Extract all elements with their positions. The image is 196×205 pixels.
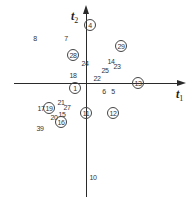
t1-axis-arrow-icon <box>177 80 186 86</box>
data-point: 24 <box>81 60 88 67</box>
data-point: 10 <box>89 174 96 181</box>
t2-axis-arrow-icon <box>83 5 89 14</box>
t1-axis-line <box>14 83 178 84</box>
data-point: 22 <box>93 75 100 82</box>
circled-data-point: 13 <box>132 77 144 89</box>
t1-axis-label: t1 <box>176 88 183 103</box>
circled-data-point: 1 <box>69 82 81 94</box>
t2-axis-label: t2 <box>71 10 78 25</box>
data-point: 5 <box>111 88 115 95</box>
data-point: 39 <box>36 125 43 132</box>
circled-data-point: 28 <box>67 49 79 61</box>
circled-data-point: 29 <box>115 40 127 52</box>
data-point: 23 <box>113 63 120 70</box>
data-point: 7 <box>64 35 68 42</box>
data-point: 27 <box>63 104 70 111</box>
data-point: 25 <box>101 67 108 74</box>
circled-data-point: 12 <box>107 107 119 119</box>
t1-axis-label-sub: 1 <box>179 94 183 103</box>
circled-data-point: 16 <box>55 116 67 128</box>
data-point: 8 <box>33 35 37 42</box>
scatter-diagram: t1 t2 4872928241423251822131652127171911… <box>0 0 196 205</box>
circled-data-point: 11 <box>80 107 92 119</box>
data-point: 18 <box>69 72 76 79</box>
t2-axis-label-sub: 2 <box>74 16 78 25</box>
circled-data-point: 4 <box>84 19 96 31</box>
circled-data-point: 19 <box>43 102 55 114</box>
t2-axis-line <box>86 12 87 197</box>
data-point: 6 <box>102 88 106 95</box>
